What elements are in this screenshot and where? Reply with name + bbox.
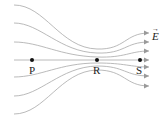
point-s-label: S (136, 65, 142, 76)
field-diagram: P R S → E (0, 0, 163, 117)
point-r-label: R (93, 65, 100, 76)
field-line-3 (14, 42, 149, 57)
field-label: E (152, 31, 159, 42)
field-line-2 (14, 23, 149, 53)
field-line-7 (14, 70, 149, 114)
point-p-dot (30, 58, 34, 62)
field-line-1 (14, 5, 149, 49)
field-lines (0, 0, 163, 117)
point-r-dot (95, 58, 99, 62)
point-p-label: P (29, 65, 35, 76)
point-s-dot (138, 58, 142, 62)
